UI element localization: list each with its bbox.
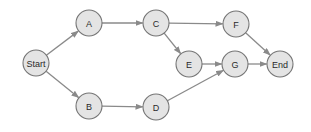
flow-diagram: StartABCDEFGEnd (0, 0, 311, 132)
node-label: F (233, 20, 239, 30)
node-label: Start (26, 59, 46, 69)
node-label: End (272, 60, 288, 70)
node-label: G (231, 60, 238, 70)
node-label: B (86, 102, 92, 112)
edge-c-to-f (169, 23, 223, 24)
edge-start-to-b (46, 71, 78, 97)
node-e: E (176, 51, 202, 77)
node-label: D (153, 103, 160, 113)
node-label: C (153, 19, 160, 29)
node-g: G (222, 51, 248, 77)
node-f: F (223, 11, 249, 37)
edge-b-to-d (102, 106, 143, 107)
node-a: A (76, 10, 102, 36)
node-d: D (143, 94, 169, 120)
edge-start-to-a (46, 31, 78, 55)
node-b: B (76, 93, 102, 119)
node-label: E (186, 60, 192, 70)
node-start: Start (23, 50, 49, 76)
edge-f-to-end (246, 33, 270, 55)
node-c: C (143, 10, 169, 36)
nodes-layer: StartABCDEFGEnd (23, 10, 293, 120)
node-label: A (86, 19, 92, 29)
edge-c-to-e (164, 33, 180, 53)
node-end: End (267, 51, 293, 77)
